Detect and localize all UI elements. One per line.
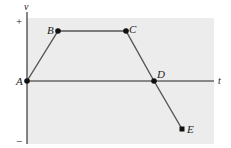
negative-marker: − [16, 135, 22, 147]
point-e-marker [180, 127, 185, 132]
point-d-label: D [156, 68, 165, 80]
point-b-marker [55, 28, 61, 34]
point-a-marker [24, 78, 30, 84]
point-c-marker [123, 28, 129, 34]
point-b-label: B [47, 24, 54, 36]
velocity-time-diagram: v + − t A B C D E [0, 0, 231, 148]
positive-marker: + [16, 15, 22, 27]
point-d-marker [151, 78, 157, 84]
point-a-label: A [15, 75, 23, 87]
point-c-label: C [129, 23, 137, 35]
t-axis-label: t [218, 75, 221, 86]
point-e-label: E [186, 123, 194, 135]
v-axis-label: v [24, 1, 29, 12]
